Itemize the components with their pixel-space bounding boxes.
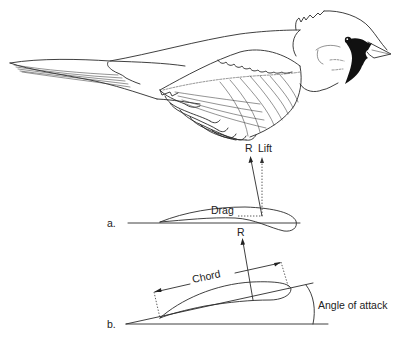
bird-wing [160,50,301,140]
bird-face-mask [345,38,372,84]
diagram-b: b. Chord Angle of attack [107,238,388,330]
chord-label: Chord [191,267,222,285]
drag-label: Drag [211,204,234,216]
chord-dim-left-extension [154,292,160,318]
lift-arrowhead-icon [260,157,264,163]
resultant-arrowhead-icon [249,156,254,163]
resultant-label-top: R [245,142,253,154]
chord-dim-line-right [235,263,280,273]
angle-of-attack-label: Angle of attack [318,299,388,311]
lift-label: Lift [258,142,272,154]
resultant-label-bottom: R [237,226,245,238]
bird-head [296,11,391,84]
bird-body [110,30,338,104]
bird-illustration [10,11,391,140]
bird-flight-diagram: a. Drag R Lift R b. [0,0,398,338]
chord-arrow-right-icon [274,262,281,267]
bird-eye [345,37,351,43]
diagram-a-label: a. [107,217,116,229]
bird-tail [10,59,185,99]
angle-of-attack-arc [306,285,314,324]
resultant-b-arrowhead-icon [241,238,246,245]
chord-arrow-left-icon [154,288,162,292]
diagram-a: a. Drag R Lift R [107,142,300,238]
diagram-b-label: b. [107,318,116,330]
